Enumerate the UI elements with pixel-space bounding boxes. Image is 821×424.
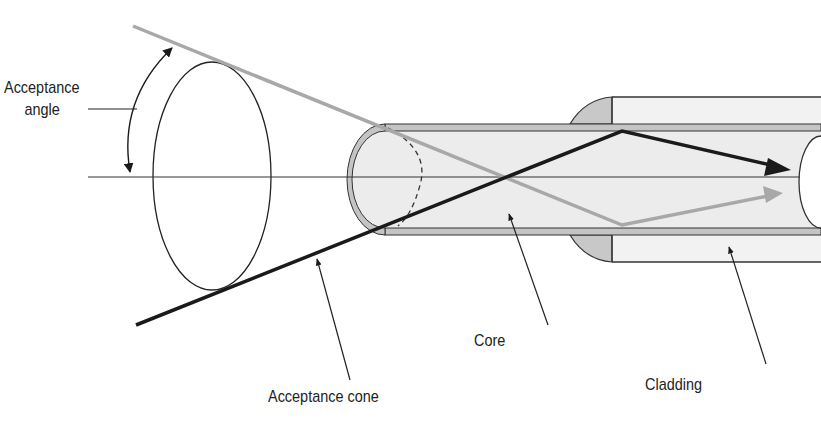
core-label: Core	[474, 330, 505, 352]
acceptance-cone-ellipse	[153, 62, 271, 290]
acceptance-angle-arc	[128, 48, 172, 172]
fiber-optic-diagram	[0, 0, 821, 424]
acceptance-cone-leader	[317, 259, 350, 380]
cladding-leader	[729, 247, 766, 364]
cladding-label: Cladding	[645, 374, 702, 396]
acceptance-angle-label-line1: Acceptance	[4, 77, 80, 99]
acceptance-cone-label: Acceptance cone	[268, 386, 379, 408]
acceptance-angle-label-line2: angle	[4, 99, 80, 121]
acceptance-angle-label: Acceptance angle	[4, 77, 80, 121]
